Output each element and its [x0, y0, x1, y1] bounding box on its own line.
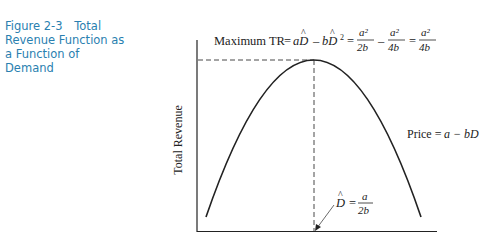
total-revenue-chart: Maximum TR = aD ^ – bD ^ 2 = a² 2b – a² … — [0, 0, 500, 235]
title-equals-2: = — [347, 34, 354, 48]
hat-2: ^ — [330, 27, 335, 38]
chart-title-equation: Maximum TR = aD ^ – bD ^ 2 = a² 2b – a² … — [214, 26, 436, 53]
dhat-hat: ^ — [338, 189, 343, 200]
frac1-den: 2b — [357, 41, 369, 53]
frac1-num: a² — [359, 26, 369, 38]
dhat-num: a — [362, 190, 368, 202]
title-equals-1: = — [284, 34, 291, 48]
frac2-num: a² — [390, 26, 400, 38]
exp-2: 2 — [340, 33, 344, 42]
title-minus-2: – — [377, 34, 385, 48]
y-axis-label: Total Revenue — [171, 105, 185, 174]
dhat-arrow — [317, 205, 334, 228]
frac3-den: 4b — [419, 41, 431, 53]
title-equals-3: = — [409, 34, 416, 48]
frac3-num: a² — [421, 26, 431, 38]
dhat-equals: = — [349, 196, 356, 210]
title-minus: – — [312, 34, 320, 48]
price-expr: a − bD — [444, 127, 479, 141]
dhat-den: 2b — [358, 204, 370, 216]
frac2-den: 4b — [388, 41, 400, 53]
total-revenue-curve — [206, 60, 421, 217]
price-label: Price = — [407, 127, 442, 141]
title-max-tr: Maximum TR — [214, 34, 286, 48]
price-annotation: Price = a − bD — [407, 127, 479, 141]
arrowhead-icon — [315, 224, 321, 231]
dhat-annotation: D ^ = a 2b — [315, 189, 373, 231]
hat-1: ^ — [301, 27, 306, 38]
